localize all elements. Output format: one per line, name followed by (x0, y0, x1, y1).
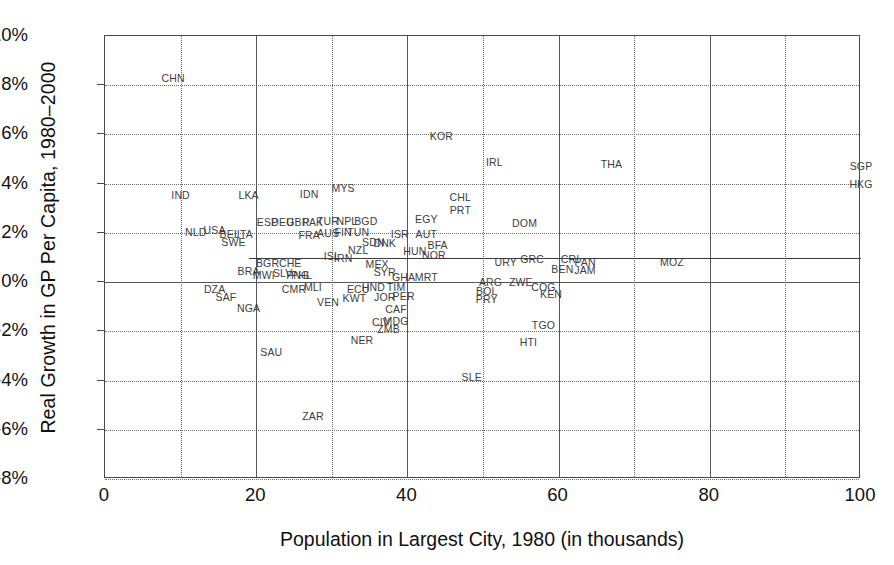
data-point-label: HKG (849, 178, 872, 189)
y-axis-tick-label: 8% (0, 73, 28, 95)
x-axis-tick-label: 20 (220, 484, 290, 506)
data-point-label: THA (601, 159, 622, 170)
data-point-label: MRT (415, 271, 438, 282)
data-point-label: SGP (850, 161, 873, 172)
scatter-plot-figure: Real Growth in GP Per Capita, 1980–2000 … (0, 0, 894, 565)
gridline-vertical (483, 36, 484, 477)
data-point-label: NER (351, 335, 374, 346)
y-axis-tick-label: 10% (0, 24, 28, 46)
y-axis-tick-label: -6% (0, 418, 28, 440)
data-point-label: KEN (540, 289, 562, 300)
gridline-horizontal (105, 381, 859, 382)
gridline-vertical (710, 36, 711, 477)
data-point-label: EGY (415, 214, 438, 225)
data-point-label: BEN (551, 264, 573, 275)
data-point-label: CHN (161, 73, 184, 84)
y-axis-tick-label: -2% (0, 319, 28, 341)
y-axis-title: Real Growth in GP Per Capita, 1980–2000 (37, 28, 60, 468)
y-axis-tick-mark (97, 330, 104, 331)
x-axis-tick-label: 60 (523, 484, 593, 506)
data-point-label: MOZ (660, 257, 684, 268)
data-point-label: IND (171, 189, 190, 200)
data-point-label: PER (393, 291, 415, 302)
y-axis-tick-label: -4% (0, 369, 28, 391)
y-axis-tick-label: 2% (0, 221, 28, 243)
data-point-label: JAM (574, 265, 595, 276)
data-point-label: PRT (450, 204, 471, 215)
data-point-label: PRY (476, 294, 498, 305)
y-axis-tick-label: 0% (0, 270, 28, 292)
data-point-label: KOR (430, 130, 453, 141)
data-point-label: CAF (385, 303, 406, 314)
gridline-horizontal (105, 184, 859, 185)
y-axis-tick-mark (97, 281, 104, 282)
data-point-label: MYS (332, 183, 355, 194)
plot-area: CHNKORIRLTHASGPHKGINDLKAIDNMYSCHLPRTEGYD… (104, 35, 860, 478)
data-point-label: HTI (520, 337, 537, 348)
gridline-vertical (785, 36, 786, 477)
gridline-vertical (634, 36, 635, 477)
y-axis-tick-mark (97, 133, 104, 134)
data-point-label: DNK (373, 238, 396, 249)
data-point-label: SLE (462, 372, 482, 383)
data-point-label: ZWE (509, 276, 533, 287)
x-axis-tick-label: 100 (825, 484, 894, 506)
data-point-label: LKA (238, 189, 258, 200)
gridline-horizontal (105, 430, 859, 431)
data-point-label: CHL (450, 192, 471, 203)
data-point-label: SWE (221, 237, 245, 248)
data-point-label: MLI (304, 282, 322, 293)
data-point-label: SAU (260, 347, 282, 358)
data-point-label: KWT (343, 293, 367, 304)
y-axis-tick-mark (97, 429, 104, 430)
gridline-horizontal (105, 479, 859, 480)
y-axis-tick-mark (97, 84, 104, 85)
y-axis-tick-label: -8% (0, 467, 28, 489)
x-axis-title: Population in Largest City, 1980 (in tho… (104, 528, 860, 551)
data-point-label: NGA (237, 303, 260, 314)
y-axis-tick-mark (97, 183, 104, 184)
gridline-horizontal (105, 85, 859, 86)
gridline-horizontal (105, 331, 859, 332)
data-point-label: IRL (486, 156, 503, 167)
data-point-label: NOR (422, 249, 446, 260)
y-axis-tick-label: 4% (0, 172, 28, 194)
data-point-label: IDN (300, 189, 319, 200)
data-point-label: TGO (532, 320, 555, 331)
data-point-label: MWI (253, 269, 275, 280)
data-point-label: GRC (520, 253, 544, 264)
x-axis-tick-label: 80 (674, 484, 744, 506)
data-point-label: ZMB (377, 324, 400, 335)
data-point-label: SAF (216, 292, 237, 303)
data-point-label: ZAR (302, 411, 323, 422)
x-axis-tick-label: 0 (69, 484, 139, 506)
gridline-vertical (559, 36, 560, 477)
data-point-label: IRN (334, 252, 353, 263)
gridline-vertical (181, 36, 182, 477)
y-axis-tick-mark (97, 232, 104, 233)
data-point-label: AUT (416, 229, 437, 240)
y-axis-tick-label: 6% (0, 122, 28, 144)
data-point-label: DOM (512, 217, 537, 228)
data-point-label: PHL (291, 270, 312, 281)
gridline-horizontal (105, 134, 859, 135)
data-point-label: VEN (317, 297, 339, 308)
data-point-label: CMR (282, 284, 306, 295)
data-point-label: URY (494, 257, 516, 268)
y-axis-tick-mark (97, 380, 104, 381)
x-axis-tick-label: 40 (371, 484, 441, 506)
